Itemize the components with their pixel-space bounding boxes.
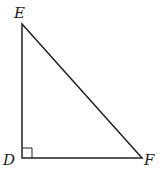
triangle-diagram: E D F (0, 0, 163, 175)
vertex-label-e: E (13, 4, 25, 22)
vertex-label-f: F (143, 151, 155, 169)
vertex-label-d: D (2, 151, 15, 169)
triangle-def (22, 24, 142, 158)
right-angle-marker (22, 148, 32, 158)
